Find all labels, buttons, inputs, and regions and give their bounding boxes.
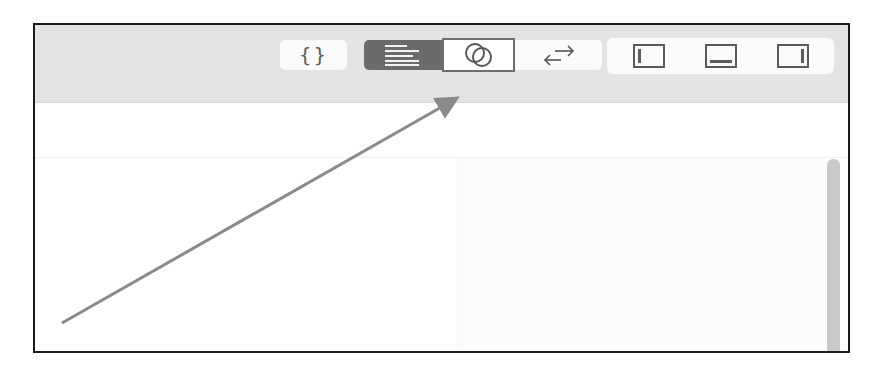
toolbar: {}	[35, 25, 848, 103]
overlapping-circles-button[interactable]	[442, 38, 515, 72]
swap-arrows-icon	[541, 43, 577, 67]
left-panel-button[interactable]	[611, 38, 686, 74]
json-button[interactable]: {}	[280, 40, 347, 70]
left-panel-icon	[633, 44, 665, 68]
side-panel	[457, 158, 823, 353]
bottom-panel-button[interactable]	[683, 38, 758, 74]
vertical-scrollbar[interactable]	[827, 159, 840, 353]
bottom-panel-icon	[705, 44, 737, 68]
text-lines-button[interactable]	[364, 40, 442, 70]
swap-button[interactable]	[515, 40, 602, 70]
layout-button-group	[607, 38, 834, 74]
overlapping-circles-icon	[463, 41, 495, 69]
view-mode-segmented-control	[364, 40, 602, 70]
right-panel-button[interactable]	[755, 38, 830, 74]
curly-braces-icon: {}	[299, 43, 328, 67]
app-window: {}	[33, 23, 850, 353]
right-panel-icon	[777, 44, 809, 68]
text-lines-icon	[385, 44, 421, 66]
content-area	[35, 103, 848, 351]
